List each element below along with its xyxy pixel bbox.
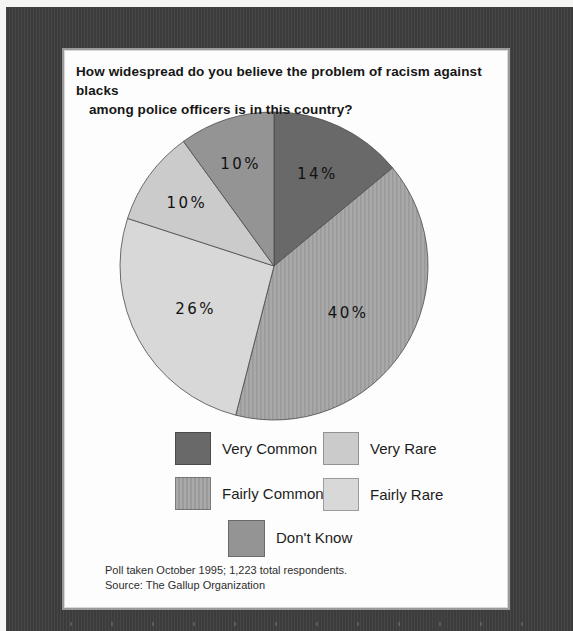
- footnote-source: Source: The Gallup Organization: [105, 578, 347, 593]
- footnote-poll-info: Poll taken October 1995; 1,223 total res…: [105, 563, 347, 578]
- cropped-caption-remnant: [70, 622, 549, 626]
- legend-item-very-rare: Very Rare: [323, 432, 493, 466]
- footnote: Poll taken October 1995; 1,223 total res…: [105, 563, 347, 593]
- legend-label-fairly-rare: Fairly Rare: [370, 486, 443, 503]
- legend-label-fairly-common: Fairly Common: [222, 485, 324, 502]
- pie-slice-value-label: 26%: [175, 300, 216, 318]
- pie-slice-value-label: 14%: [297, 165, 338, 183]
- legend-swatch-very-common: [175, 432, 211, 465]
- legend-item-dont-know: Don't Know: [228, 520, 428, 557]
- figure-panel: 14%40%26%10%10% How widespread do you be…: [62, 48, 510, 610]
- legend-label-very-common: Very Common: [222, 440, 317, 457]
- chart-title-line2: among police officers is in this country…: [76, 100, 496, 119]
- pie-slice-value-label: 10%: [220, 155, 261, 173]
- legend-swatch-fairly-rare: [323, 478, 359, 511]
- legend-swatch-very-rare: [323, 432, 359, 465]
- legend-item-fairly-rare: Fairly Rare: [323, 478, 493, 512]
- legend-label-very-rare: Very Rare: [370, 440, 437, 457]
- pie-slice-value-label: 40%: [328, 304, 369, 322]
- legend-label-dont-know: Don't Know: [276, 529, 352, 546]
- legend-swatch-fairly-common: [175, 477, 211, 510]
- chart-title-line1: How widespread do you believe the proble…: [76, 62, 496, 100]
- legend-swatch-dont-know: [228, 520, 265, 557]
- pie-slice-value-label: 10%: [166, 194, 207, 212]
- scanned-figure-page: { "figure": { "title_line1": "How widesp…: [0, 0, 573, 631]
- chart-title: How widespread do you believe the proble…: [76, 62, 496, 119]
